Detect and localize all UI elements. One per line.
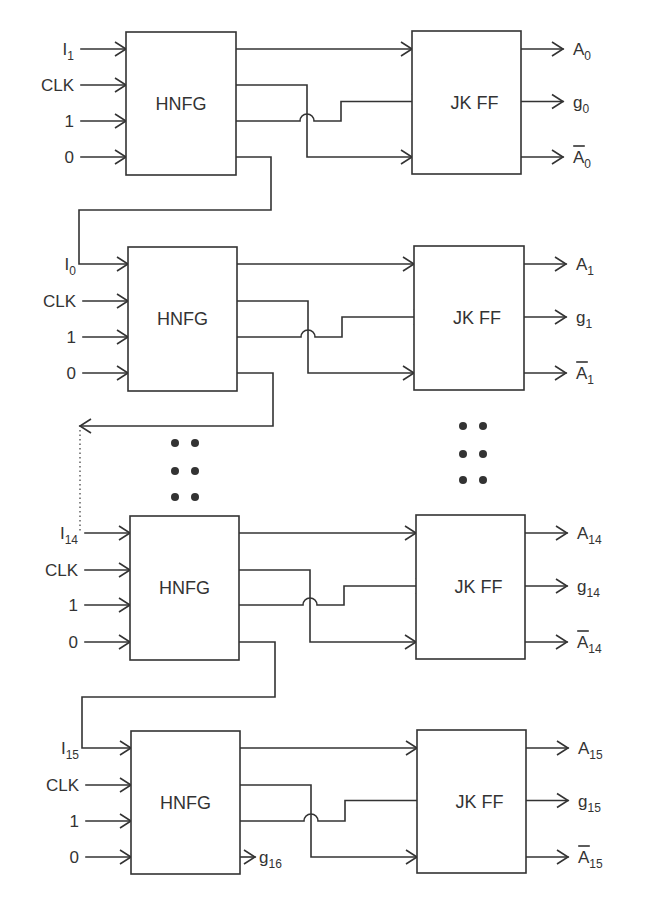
input-label-clk-main: CLK: [43, 292, 77, 311]
input-label-clk: CLK: [45, 561, 79, 580]
output-label-g: g0: [573, 93, 589, 116]
output-label-g: g1: [576, 308, 592, 331]
input-label-const: 0: [65, 148, 74, 167]
input-label-i-subscript: 14: [65, 533, 79, 547]
output-label-a: A14: [577, 524, 602, 547]
input-label-clk-main: CLK: [45, 561, 79, 580]
input-label-const-main: 1: [67, 328, 76, 347]
terminal-output-label-g16-main: g: [259, 848, 268, 867]
input-label-i-subscript: 1: [67, 49, 74, 63]
output-label-a-subscript: 0: [584, 49, 591, 63]
output-label-a-bar: A14: [577, 633, 602, 656]
input-label-i: I15: [61, 739, 79, 762]
ellipsis-dot-right: [479, 422, 487, 430]
output-label-a-main: A: [573, 40, 585, 59]
terminal-output-label-g16: g16: [259, 848, 282, 871]
input-label-i: I14: [60, 524, 78, 547]
jk-flip-flop-label: JK FF: [453, 308, 501, 328]
output-label-g-subscript: 14: [586, 586, 600, 600]
ellipsis-dot-right: [479, 450, 487, 458]
input-label-const: 1: [70, 812, 79, 831]
ellipsis-dot-left: [191, 439, 199, 447]
output-label-a: A0: [573, 40, 591, 63]
output-label-a-subscript: 15: [589, 748, 603, 762]
output-label-a-bar: A1: [576, 364, 594, 387]
output-label-g-main: g: [576, 308, 585, 327]
output-label-g: g15: [578, 792, 601, 815]
hnfg-block-label: HNFG: [156, 94, 207, 114]
output-label-a-bar-subscript: 15: [589, 857, 603, 871]
ellipsis-dot-right: [459, 476, 467, 484]
ellipsis-dot-right: [479, 476, 487, 484]
output-label-a-bar-main: A: [577, 633, 589, 652]
jk-flip-flop-label: JK FF: [451, 93, 499, 113]
ellipsis-dot-left: [171, 493, 179, 501]
jk-flip-flop-label: JK FF: [456, 792, 504, 812]
hnfg-to-clock-wire-with-crossover: [237, 317, 414, 337]
input-label-const-main: 1: [65, 112, 74, 131]
output-label-a-bar-main: A: [576, 364, 588, 383]
terminal-output-label-g16-subscript: 16: [268, 857, 282, 871]
output-label-g-subscript: 0: [582, 102, 589, 116]
jk-flip-flop-label: JK FF: [455, 577, 503, 597]
output-label-a-bar: A15: [578, 848, 603, 871]
input-label-clk: CLK: [46, 776, 80, 795]
input-label-i-subscript: 0: [69, 264, 76, 278]
input-label-const-main: 0: [67, 364, 76, 383]
output-label-g-main: g: [578, 792, 587, 811]
output-label-a-subscript: 1: [587, 264, 594, 278]
output-label-a-main: A: [576, 255, 588, 274]
input-label-const: 1: [67, 328, 76, 347]
input-label-i: I0: [65, 255, 77, 278]
hnfg-block-label: HNFG: [157, 309, 208, 329]
output-label-a: A1: [576, 255, 594, 278]
output-label-a-subscript: 14: [588, 533, 602, 547]
hnfg-block-label: HNFG: [160, 793, 211, 813]
ellipsis-dot-left: [191, 493, 199, 501]
input-label-i-subscript: 15: [66, 748, 80, 762]
input-label-const: 1: [65, 112, 74, 131]
hnfg-block-label: HNFG: [159, 578, 210, 598]
ellipsis-dot-left: [191, 467, 199, 475]
input-label-i: I1: [63, 40, 75, 63]
hnfg-to-jk-k-wire: [239, 570, 416, 642]
input-label-const-main: 0: [69, 633, 78, 652]
input-label-clk: CLK: [43, 292, 77, 311]
input-label-clk-main: CLK: [41, 76, 75, 95]
input-label-const-main: 0: [70, 848, 79, 867]
input-label-const-main: 1: [70, 812, 79, 831]
hnfg-to-clock-wire-with-crossover: [239, 586, 416, 605]
input-label-clk-main: CLK: [46, 776, 80, 795]
output-label-a-bar-main: A: [573, 148, 585, 167]
input-label-const-main: 0: [65, 148, 74, 167]
ellipsis-dot-right: [459, 450, 467, 458]
output-label-g-subscript: 15: [587, 801, 601, 815]
input-label-const: 0: [70, 848, 79, 867]
output-label-g-main: g: [573, 93, 582, 112]
output-label-a-bar-subscript: 14: [588, 642, 602, 656]
ellipsis-dot-left: [171, 439, 179, 447]
output-label-a-bar-subscript: 0: [584, 157, 591, 171]
input-label-clk: CLK: [41, 76, 75, 95]
output-label-a-main: A: [577, 524, 589, 543]
output-label-a-bar: A0: [573, 148, 591, 171]
input-label-const: 0: [67, 364, 76, 383]
output-label-a-bar-main: A: [578, 848, 590, 867]
output-label-g: g14: [577, 577, 600, 600]
output-label-a-bar-subscript: 1: [587, 373, 594, 387]
output-label-g-subscript: 1: [585, 317, 592, 331]
output-label-a: A15: [578, 739, 603, 762]
output-label-g-main: g: [577, 577, 586, 596]
hnfg-to-clock-wire-with-crossover: [240, 801, 417, 822]
input-label-const-main: 1: [69, 596, 78, 615]
input-label-const: 1: [69, 596, 78, 615]
ellipsis-dot-right: [459, 422, 467, 430]
hnfg-jkff-cascade-diagram: HNFGJK FFI1CLK10A0g0A0HNFGJK FFI0CLK10A1…: [0, 0, 645, 903]
hnfg-to-clock-wire-with-crossover: [236, 102, 412, 122]
output-label-a-main: A: [578, 739, 590, 758]
ellipsis-dot-left: [171, 467, 179, 475]
input-label-const: 0: [69, 633, 78, 652]
